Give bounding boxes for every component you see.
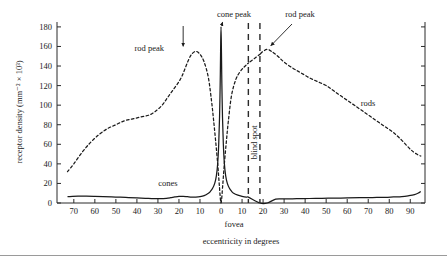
y-axis-tick-labels: 020406080100120140160180 <box>39 22 52 208</box>
x-tick-label: 50 <box>112 206 121 216</box>
y-tick-label: 40 <box>44 159 53 169</box>
x-tick-label: 30 <box>280 206 289 216</box>
x-tick-label: 20 <box>175 206 184 216</box>
y-tick-label: 20 <box>44 178 53 188</box>
y-axis-title: receptor density (mm⁻² × 10³) <box>14 60 24 163</box>
x-tick-label: 40 <box>133 206 142 216</box>
x-tick-label: 60 <box>343 206 352 216</box>
rod-peak-left-label: rod peak <box>134 43 164 53</box>
y-tick-label: 60 <box>44 139 53 149</box>
x-tick-label: 50 <box>322 206 331 216</box>
x-axis-tick-labels: 706050403020100102030405060708090 <box>70 206 415 216</box>
bottom-divider <box>0 255 447 256</box>
cone-peak-label: cone peak <box>217 9 252 19</box>
cones-curve <box>68 27 421 204</box>
x-tick-label: 80 <box>385 206 394 216</box>
y-axis-ticks-right <box>421 27 425 203</box>
x-tick-label: 30 <box>154 206 163 216</box>
y-tick-label: 0 <box>48 198 52 208</box>
cones-label: cones <box>158 178 177 188</box>
rods-label: rods <box>361 98 376 108</box>
x-axis-ticks <box>74 199 410 203</box>
x-tick-label: 20 <box>259 206 268 216</box>
x-tick-label: 90 <box>406 206 415 216</box>
annotation-arrows <box>183 22 292 46</box>
y-axis-ticks <box>57 27 61 203</box>
y-tick-label: 120 <box>39 81 52 91</box>
axes-group <box>57 22 425 203</box>
rods-curve <box>68 49 421 203</box>
x-tick-label: 70 <box>70 206 79 216</box>
blind-spot-label: blind spot <box>249 125 259 159</box>
x-tick-label: 0 <box>219 206 223 216</box>
rod-peak-right-arrow <box>271 24 292 46</box>
y-tick-label: 160 <box>39 41 52 51</box>
x-axis-title: eccentricity in degrees <box>203 236 279 246</box>
x-tick-label: 40 <box>301 206 310 216</box>
x-tick-label: 70 <box>364 206 373 216</box>
fovea-label: fovea <box>225 219 244 229</box>
x-tick-label: 60 <box>91 206 100 216</box>
x-tick-label: 10 <box>196 206 205 216</box>
cone-peak-arrow <box>222 22 223 24</box>
receptor-density-figure: 020406080100120140160180 706050403020100… <box>0 0 447 260</box>
y-tick-label: 80 <box>44 120 53 130</box>
y-tick-label: 140 <box>39 61 52 71</box>
y-tick-label: 100 <box>39 100 52 110</box>
rod-peak-right-label: rod peak <box>285 9 315 19</box>
x-tick-label: 10 <box>238 206 247 216</box>
y-tick-label: 180 <box>39 22 52 32</box>
blind-spot-region: blind spot <box>248 23 260 203</box>
receptor-density-chart: 020406080100120140160180 706050403020100… <box>0 0 447 260</box>
